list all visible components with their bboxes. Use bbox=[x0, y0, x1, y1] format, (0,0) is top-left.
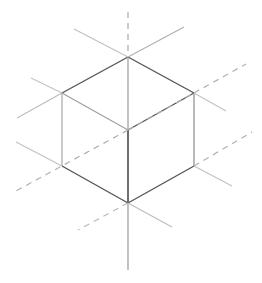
canvas-background bbox=[0, 0, 262, 283]
isometric-cube-diagram bbox=[0, 0, 262, 283]
figure-canvas bbox=[0, 0, 262, 283]
